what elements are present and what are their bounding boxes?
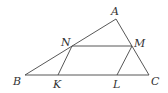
label-b: B bbox=[12, 75, 21, 88]
label-k: K bbox=[52, 78, 62, 91]
geometry-diagram: A N M B K L C bbox=[0, 0, 168, 93]
label-n: N bbox=[60, 36, 71, 49]
label-m: M bbox=[133, 37, 146, 50]
label-c: C bbox=[151, 75, 160, 88]
label-a: A bbox=[110, 5, 119, 18]
label-l: L bbox=[112, 78, 120, 91]
segment-ml bbox=[117, 46, 132, 75]
